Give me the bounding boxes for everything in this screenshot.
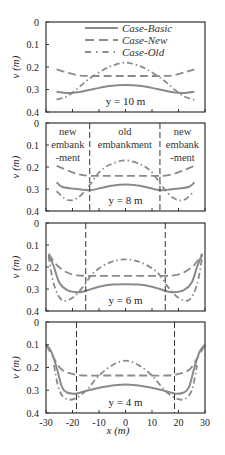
region-annotation: new: [174, 126, 192, 137]
x-axis: x (m): [106, 424, 130, 437]
y-tick-label: 0: [34, 17, 39, 28]
y-tick-label: 0: [34, 218, 39, 229]
legend-label: Case-Old: [122, 46, 165, 58]
series-case-new-line: [49, 254, 203, 276]
region-annotation: embank: [51, 139, 85, 150]
panel-4: 00.10.20.30.4v (m)y = 4 m-30-20-10010203…: [9, 317, 210, 429]
y-tick-label: 0.4: [27, 408, 40, 419]
panels: 00.10.20.30.4v (m)y = 10 mCase-BasicCase…: [9, 17, 210, 429]
x-tick-label: 20: [174, 417, 184, 428]
y-tick-label: 0.3: [27, 184, 40, 195]
legend-label: Case-New: [122, 34, 168, 46]
x-tick-label: 10: [147, 417, 157, 428]
region-annotation: -ment: [56, 152, 81, 163]
y-tick-label: 0.3: [27, 284, 40, 295]
y-axis-label: v (m): [9, 255, 22, 278]
y-tick-label: 0.4: [27, 306, 40, 317]
y-tick-label: 0.2: [27, 262, 40, 273]
x-axis-label: x (m): [106, 424, 130, 437]
region-annotation: old: [118, 126, 132, 137]
y-tick-label: 0: [34, 118, 39, 129]
y-tick-label: 0.2: [27, 162, 40, 173]
y-tick-label: 0.2: [27, 362, 40, 373]
series-case-basic-line: [57, 182, 195, 190]
panel-1: 00.10.20.30.4v (m)y = 10 mCase-BasicCase…: [9, 17, 205, 118]
panel-label: y = 8 m: [108, 194, 142, 206]
legend-label: Case-Basic: [122, 22, 172, 34]
y-tick-label: 0: [34, 317, 39, 328]
x-tick-label: 30: [200, 417, 210, 428]
panel-2: 00.10.20.30.4v (m)y = 8 mnewembank-mento…: [9, 118, 205, 217]
y-axis-label: v (m): [9, 356, 22, 379]
series-case-new-line: [57, 166, 195, 176]
panel-3: 00.10.20.30.4v (m)y = 6 m: [9, 218, 205, 317]
y-tick-label: 0.1: [27, 339, 40, 350]
x-tick-label: -20: [66, 417, 79, 428]
panel-label: y = 4 m: [108, 396, 142, 408]
y-tick-label: 0.4: [27, 107, 40, 118]
x-tick-label: -10: [92, 417, 105, 428]
panel-label: y = 10 m: [106, 95, 146, 107]
y-tick-label: 0.3: [27, 84, 40, 95]
y-tick-label: 0.2: [27, 62, 40, 73]
series-case-basic-line: [46, 345, 205, 394]
x-tick-label: -30: [39, 417, 52, 428]
panel-label: y = 6 m: [108, 294, 142, 306]
y-tick-label: 0.4: [27, 206, 40, 217]
y-tick-label: 0.3: [27, 385, 40, 396]
chart: 00.10.20.30.4v (m)y = 10 mCase-BasicCase…: [0, 0, 225, 455]
y-tick-label: 0.1: [27, 39, 40, 50]
y-axis-label: v (m): [9, 155, 22, 178]
region-annotation: embankment: [98, 139, 152, 150]
y-tick-label: 0.1: [27, 140, 40, 151]
y-axis-label: v (m): [9, 55, 22, 78]
region-annotation: embank: [166, 139, 200, 150]
series-case-new-line: [57, 69, 195, 76]
y-tick-label: 0.1: [27, 240, 40, 251]
region-annotation: -ment: [170, 152, 195, 163]
region-annotation: new: [59, 126, 77, 137]
